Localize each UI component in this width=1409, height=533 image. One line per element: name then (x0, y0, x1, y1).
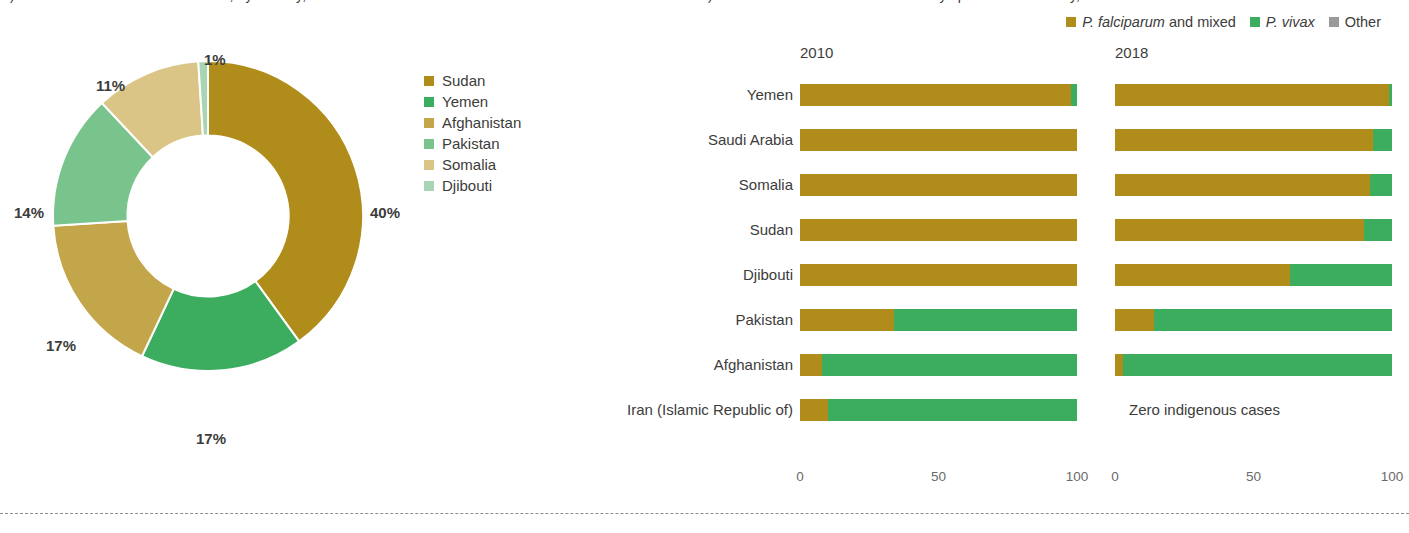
bar-segment-falciparum[interactable] (800, 174, 1077, 196)
donut-legend-label: Djibouti (442, 177, 492, 194)
bar-segment-falciparum[interactable] (1115, 129, 1373, 151)
donut-legend-label: Somalia (442, 156, 496, 173)
bar-segment-falciparum[interactable] (800, 129, 1077, 151)
bar-segment-falciparum[interactable] (800, 354, 822, 376)
bar-segment-vivax[interactable] (1373, 129, 1392, 151)
category-label-afghanistan: Afghanistan (600, 350, 793, 395)
bar-segment-vivax[interactable] (894, 309, 1077, 331)
bar-segment-vivax[interactable] (1290, 264, 1392, 286)
bar-row-2010-yemen (800, 80, 1077, 125)
species-swatch-falciparum-and-mixed-icon (1066, 17, 1076, 27)
donut-legend: SudanYemenAfghanistanPakistanSomaliaDjib… (424, 70, 521, 196)
donut-legend-item-yemen[interactable]: Yemen (424, 91, 521, 112)
bars-column-2018: Zero indigenous cases (1115, 80, 1392, 440)
bar-segment-falciparum[interactable] (800, 309, 894, 331)
bar-segment-falciparum[interactable] (1115, 219, 1364, 241)
bar-track (800, 354, 1077, 376)
x-axis-2018: 050100 (1115, 469, 1392, 489)
x-tick-2010-0: 0 (796, 469, 804, 484)
bar-track (800, 399, 1077, 421)
bar-row-2010-saudi-arabia (800, 125, 1077, 170)
bar-segment-vivax[interactable] (822, 354, 1077, 376)
donut-legend-label: Afghanistan (442, 114, 521, 131)
bar-row-2018-sudan (1115, 215, 1392, 260)
bar-row-2010-sudan (800, 215, 1077, 260)
legend-swatch-pakistan-icon (424, 139, 434, 149)
bar-segment-vivax[interactable] (1071, 84, 1077, 106)
bar-segment-falciparum[interactable] (800, 264, 1077, 286)
donut-legend-item-afghanistan[interactable]: Afghanistan (424, 112, 521, 133)
bar-segment-vivax[interactable] (1123, 354, 1392, 376)
category-label-saudi-arabia: Saudi Arabia (600, 125, 793, 170)
bar-row-2010-iran-islamic-republic-of- (800, 395, 1077, 440)
pct-label-pakistan: 14% (14, 204, 44, 221)
bar-row-2018-pakistan (1115, 305, 1392, 350)
legend-swatch-somalia-icon (424, 160, 434, 170)
species-legend-label: P. vivax (1266, 14, 1315, 30)
bar-track (800, 219, 1077, 241)
legend-swatch-afghanistan-icon (424, 118, 434, 128)
legend-swatch-sudan-icon (424, 76, 434, 86)
category-label-somalia: Somalia (600, 170, 793, 215)
bar-row-2018-iran-islamic-republic-of-: Zero indigenous cases (1115, 395, 1392, 440)
x-tick-2018-0: 0 (1111, 469, 1119, 484)
species-legend-item-falciparum-and-mixed[interactable]: P. falciparum and mixed (1066, 14, 1236, 30)
bar-segment-vivax[interactable] (828, 399, 1077, 421)
x-tick-2010-50: 50 (931, 469, 946, 484)
species-legend: P. falciparum and mixedP. vivaxOther (1066, 14, 1381, 30)
bar-track (800, 129, 1077, 151)
bar-row-2018-yemen (1115, 80, 1392, 125)
category-label-djibouti: Djibouti (600, 260, 793, 305)
bar-segment-vivax[interactable] (1364, 219, 1392, 241)
bar-row-2018-afghanistan (1115, 350, 1392, 395)
legend-swatch-djibouti-icon (424, 181, 434, 191)
donut-legend-item-pakistan[interactable]: Pakistan (424, 133, 521, 154)
year-heading-2010: 2010 (800, 44, 833, 61)
donut-legend-item-sudan[interactable]: Sudan (424, 70, 521, 91)
bottom-dashed-divider (0, 513, 1409, 514)
pct-label-djibouti: 1% (204, 51, 226, 68)
bar-segment-falciparum[interactable] (800, 399, 828, 421)
bar-track (1115, 354, 1392, 376)
pct-label-somalia: 11% (96, 77, 125, 94)
donut-legend-item-djibouti[interactable]: Djibouti (424, 175, 521, 196)
species-legend-label: Other (1345, 14, 1381, 30)
donut-legend-label: Pakistan (442, 135, 500, 152)
bar-segment-vivax[interactable] (1154, 309, 1392, 331)
species-legend-label: P. falciparum and mixed (1082, 14, 1236, 30)
bar-track (800, 309, 1077, 331)
bar-segment-falciparum[interactable] (1115, 354, 1123, 376)
donut-legend-label: Yemen (442, 93, 488, 110)
bar-row-2010-afghanistan (800, 350, 1077, 395)
donut-legend-label: Sudan (442, 72, 485, 89)
pct-label-yemen: 17% (196, 430, 226, 447)
bar-track (1115, 264, 1392, 286)
bar-segment-falciparum[interactable] (1115, 84, 1389, 106)
donut-chart-panel: 40% 17% 17% 14% 11% 1% SudanYemenAfghani… (0, 24, 600, 464)
species-legend-item-other[interactable]: Other (1329, 14, 1381, 30)
pct-label-sudan: 40% (370, 204, 400, 221)
bar-segment-falciparum[interactable] (1115, 264, 1290, 286)
x-axis-2010: 050100 (800, 469, 1077, 489)
bar-segment-vivax[interactable] (1389, 84, 1392, 106)
pct-label-afghanistan: 17% (46, 337, 76, 354)
bar-track (1115, 174, 1392, 196)
bar-segment-vivax[interactable] (1370, 174, 1392, 196)
bar-track (800, 84, 1077, 106)
bar-row-2018-djibouti (1115, 260, 1392, 305)
bar-track (1115, 129, 1392, 151)
species-legend-item-vivax[interactable]: P. vivax (1250, 14, 1315, 30)
donut-legend-item-somalia[interactable]: Somalia (424, 154, 521, 175)
bar-segment-falciparum[interactable] (1115, 309, 1154, 331)
bar-segment-falciparum[interactable] (800, 84, 1071, 106)
zero-cases-note: Zero indigenous cases (1129, 399, 1280, 421)
species-swatch-other-icon (1329, 17, 1339, 27)
category-label-pakistan: Pakistan (600, 305, 793, 350)
bar-row-2018-somalia (1115, 170, 1392, 215)
bar-segment-falciparum[interactable] (1115, 174, 1370, 196)
donut-svg (48, 56, 368, 376)
bar-row-2010-somalia (800, 170, 1077, 215)
bar-segment-falciparum[interactable] (800, 219, 1077, 241)
category-label-iran-islamic-republic-of-: Iran (Islamic Republic of) (600, 395, 793, 440)
bar-chart-panel: P. falciparum and mixedP. vivaxOther 201… (600, 0, 1409, 533)
